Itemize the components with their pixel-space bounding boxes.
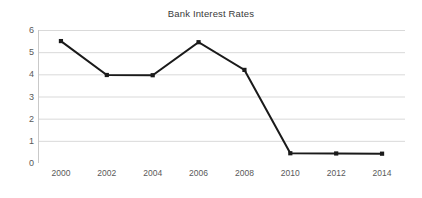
y-axis-tick-label: 2 <box>4 114 34 124</box>
chart-title: Bank Interest Rates <box>0 8 422 19</box>
y-axis-tick-label: 4 <box>4 69 34 79</box>
x-axis-tick-label: 2006 <box>189 168 208 178</box>
x-axis-tick-label: 2004 <box>143 168 162 178</box>
series-polyline <box>61 41 382 154</box>
y-axis-tick-label: 1 <box>4 136 34 146</box>
data-point-marker <box>59 39 63 43</box>
data-point-marker <box>196 40 200 44</box>
chart-container: Bank Interest Rates 0123456 200020022004… <box>0 0 422 198</box>
x-axis-tick-label: 2000 <box>51 168 70 178</box>
y-axis-tick-label: 0 <box>4 158 34 168</box>
data-point-marker <box>242 68 246 72</box>
y-axis-tick-label: 6 <box>4 25 34 35</box>
data-point-marker <box>288 151 292 155</box>
y-axis-tick-label: 5 <box>4 47 34 57</box>
data-point-marker <box>334 151 338 155</box>
data-point-marker <box>151 73 155 77</box>
y-axis-tick-label: 3 <box>4 92 34 102</box>
x-axis-tick-label: 2014 <box>373 168 392 178</box>
y-axis-tick-labels: 0123456 <box>0 30 34 163</box>
x-axis-tick-label: 2008 <box>235 168 254 178</box>
x-axis-tick-label: 2012 <box>327 168 346 178</box>
data-point-marker <box>105 73 109 77</box>
x-axis-tick-label: 2010 <box>281 168 300 178</box>
data-series-line <box>38 30 405 163</box>
data-point-marker <box>380 152 384 156</box>
plot-area <box>38 30 405 163</box>
x-axis-tick-label: 2002 <box>97 168 116 178</box>
x-axis-tick-labels: 20002002200420062008201020122014 <box>38 168 405 184</box>
